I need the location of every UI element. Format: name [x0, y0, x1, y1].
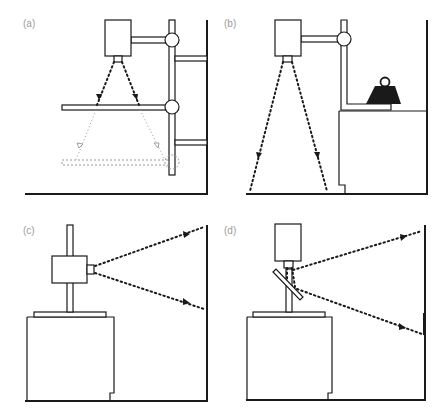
arm-clamp [337, 32, 351, 46]
camera-arm [131, 37, 169, 43]
camera-lens [87, 265, 94, 274]
panel-b-drawing [221, 0, 443, 209]
arrow-icon [77, 143, 83, 148]
alt-projection-right [140, 110, 165, 160]
arrow-icon [399, 323, 406, 330]
alt-projection-left [76, 110, 96, 160]
arm-clamp [165, 33, 179, 47]
panel-c: (c) [0, 209, 221, 418]
panel-d: (d) [221, 209, 443, 418]
camera-lens [284, 261, 293, 268]
bench [339, 111, 427, 194]
panel-b: (b) [221, 0, 443, 209]
camera-icon [105, 20, 131, 56]
baseboard-clamp [165, 100, 179, 114]
baseboard [62, 105, 169, 110]
camera-icon [275, 20, 301, 56]
camera-lens [283, 56, 292, 62]
projection-line-left [250, 62, 283, 191]
camera-icon [275, 224, 301, 261]
projection-line-upper [95, 227, 204, 266]
projection-line-right [292, 62, 327, 191]
panel-a: (a) [0, 0, 221, 209]
bench [27, 317, 114, 401]
arrow-icon [154, 143, 159, 148]
wall-bracket-lower [175, 140, 207, 145]
weight-icon [366, 78, 401, 105]
arrow-icon [132, 94, 138, 100]
wall-bracket-upper [175, 56, 207, 61]
camera-lens [114, 56, 122, 62]
baseboard [253, 312, 325, 317]
alt-baseboard [62, 160, 169, 165]
panel-d-drawing [221, 209, 443, 418]
camera-arm [301, 36, 341, 42]
panel-c-drawing [0, 209, 221, 418]
camera-icon [52, 256, 87, 283]
bench [247, 317, 332, 400]
baseboard [34, 312, 106, 317]
wall-target [423, 313, 426, 335]
panel-a-drawing [0, 0, 221, 209]
